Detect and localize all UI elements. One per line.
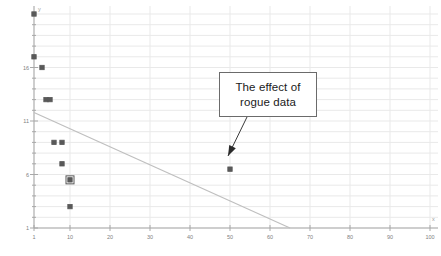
x-tick-label: 30 <box>147 234 153 240</box>
callout-line-1: The effect of <box>235 80 300 94</box>
y-axis-title: y <box>38 6 41 12</box>
x-tick-label: 80 <box>347 234 353 240</box>
y-tick-label: 1 <box>18 225 29 231</box>
y-tick-label: 16 <box>18 65 29 71</box>
y-tick-label: 6 <box>18 172 29 178</box>
x-axis-title: x <box>432 216 435 222</box>
x-tick-label: 60 <box>267 234 273 240</box>
x-tick-label: 90 <box>387 234 393 240</box>
x-tick-label: 50 <box>227 234 233 240</box>
x-tick-label: 100 <box>425 234 434 240</box>
x-tick-label: 70 <box>307 234 313 240</box>
gridlines <box>34 6 438 228</box>
chart-screenshot: 1102030405060708090100 161116 x y The ef… <box>0 0 441 256</box>
callout-line-2: rogue data <box>240 95 296 109</box>
x-tick-label: 1 <box>32 234 35 240</box>
scatter-plot: 1102030405060708090100 161116 x y The ef… <box>0 0 441 256</box>
x-tick-label: 20 <box>107 234 113 240</box>
y-tick-label: 11 <box>18 118 29 124</box>
trend-line <box>34 112 290 228</box>
annotation-arrow <box>228 117 247 156</box>
axis-lines <box>34 6 438 228</box>
rogue-data-callout: The effect of rogue data <box>219 72 317 117</box>
x-tick-label: 40 <box>187 234 193 240</box>
x-tick-label: 10 <box>67 234 73 240</box>
plot-canvas <box>0 0 441 256</box>
